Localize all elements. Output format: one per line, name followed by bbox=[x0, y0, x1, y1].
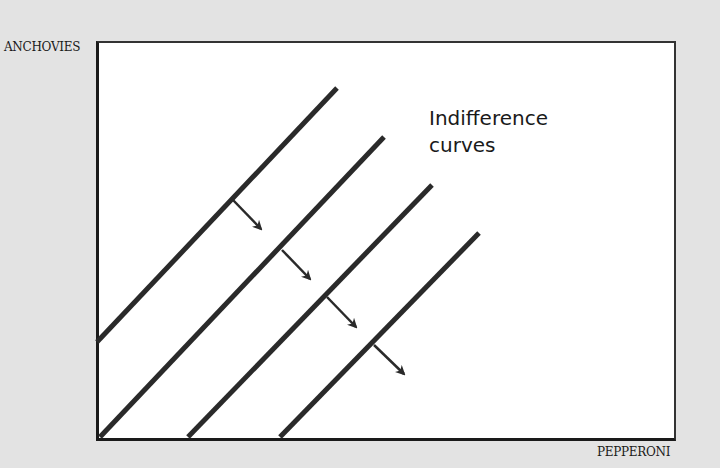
arrow-icon-4 bbox=[374, 345, 404, 374]
arrow-icon-2 bbox=[282, 250, 310, 279]
indifference-curve-4 bbox=[280, 233, 479, 437]
indifference-curve-3 bbox=[188, 185, 432, 437]
curves-layer bbox=[0, 0, 720, 468]
preference-arrows bbox=[233, 200, 404, 374]
arrow-icon-1 bbox=[233, 200, 261, 229]
indifference-curve-1 bbox=[97, 88, 337, 342]
arrow-icon-3 bbox=[327, 297, 356, 327]
indifference-curve-2 bbox=[100, 137, 384, 437]
indifference-curve-lines bbox=[97, 88, 479, 437]
diagram-canvas: ANCHOVIES PEPPERONI Indifference curves bbox=[0, 0, 720, 468]
